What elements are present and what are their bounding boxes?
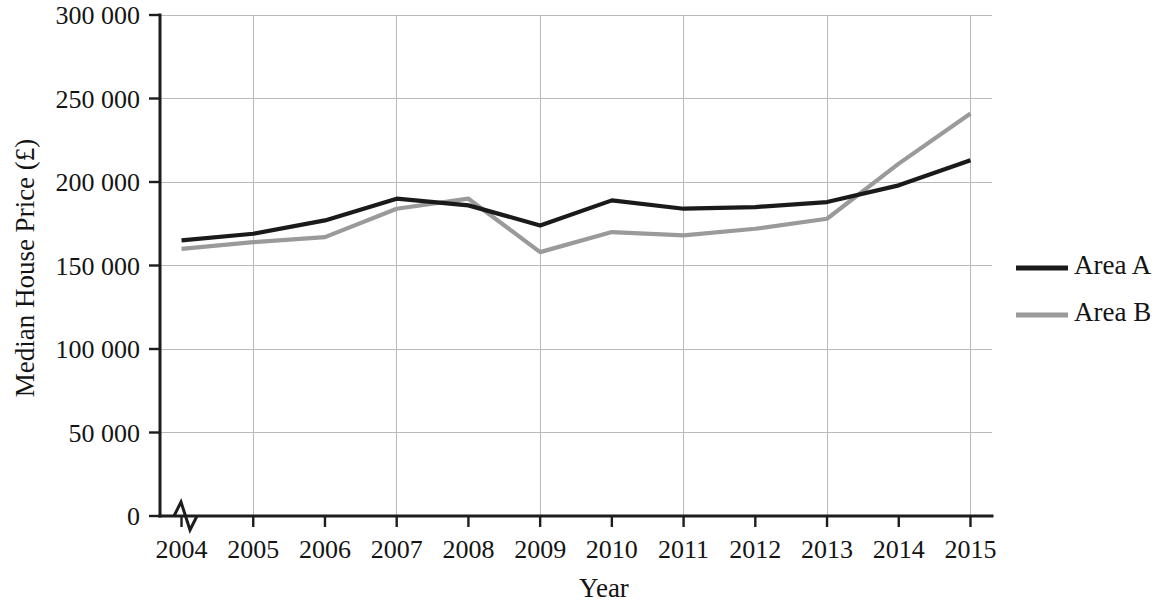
x-tick-label: 2012 [729,535,781,564]
y-axis-tick-labels: 050 000100 000150 000200 000250 000300 0… [56,1,141,531]
legend-label-area-a: Area A [1074,250,1152,280]
y-tick-label: 100 000 [56,335,141,364]
x-tick-label: 2015 [944,535,996,564]
y-axis-title: Median House Price (£) [10,139,40,398]
legend-label-area-b: Area B [1074,297,1151,327]
y-axis-ticks [149,15,160,516]
chart-legend: Area AArea B [1016,250,1152,327]
x-axis-ticks [182,516,971,527]
chart-canvas: 050 000100 000150 000200 000250 000300 0… [0,0,1173,603]
line-chart: 050 000100 000150 000200 000250 000300 0… [0,0,1173,603]
x-tick-label: 2010 [586,535,638,564]
x-axis-tick-labels: 2004200520062007200820092010201120122013… [156,535,997,564]
x-axis-title: Year [579,573,629,603]
y-tick-label: 300 000 [56,1,141,30]
x-axis-title-text: Year [579,573,629,603]
series-line-area-b [182,114,971,253]
y-tick-label: 50 000 [69,419,141,448]
x-tick-label: 2005 [227,535,279,564]
x-tick-label: 2004 [156,535,208,564]
x-tick-label: 2013 [801,535,853,564]
x-tick-label: 2014 [873,535,925,564]
x-tick-label: 2006 [299,535,351,564]
x-tick-label: 2011 [658,535,709,564]
y-tick-label: 200 000 [56,168,141,197]
data-series-group [182,114,971,253]
x-tick-label: 2007 [371,535,423,564]
x-tick-label: 2008 [442,535,494,564]
horizontal-gridlines [160,15,992,433]
y-tick-label: 150 000 [56,252,141,281]
x-tick-label: 2009 [514,535,566,564]
y-tick-label: 250 000 [56,85,141,114]
y-axis-title-text: Median House Price (£) [10,139,40,398]
y-tick-label: 0 [127,502,140,531]
chart-axes [160,15,992,530]
